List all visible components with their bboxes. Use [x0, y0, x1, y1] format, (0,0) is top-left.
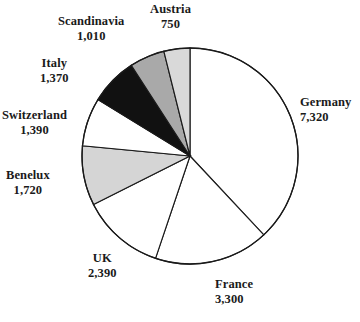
pie-chart-canvas [0, 0, 360, 322]
pie-label-name: Switzerland [2, 108, 67, 123]
pie-label-value: 1,720 [6, 183, 50, 198]
pie-label-name: Austria [150, 2, 191, 17]
pie-label-value: 3,300 [215, 292, 253, 307]
pie-label-switzerland: Switzerland1,390 [2, 108, 67, 138]
pie-label-benelux: Benelux1,720 [6, 168, 50, 198]
pie-label-scandinavia: Scandinavia1,010 [58, 14, 124, 44]
pie-label-uk: UK2,390 [88, 251, 117, 281]
pie-label-name: Germany [300, 95, 351, 110]
pie-label-value: 750 [150, 17, 191, 32]
pie-label-name: UK [88, 251, 117, 266]
pie-label-value: 7,320 [300, 110, 351, 125]
pie-label-name: Italy [40, 56, 69, 71]
pie-slices-group [82, 48, 298, 264]
pie-label-value: 2,390 [88, 266, 117, 281]
pie-label-value: 1,370 [40, 71, 69, 86]
pie-label-austria: Austria750 [150, 2, 191, 32]
pie-label-germany: Germany7,320 [300, 95, 351, 125]
pie-label-name: Scandinavia [58, 14, 124, 29]
pie-label-name: France [215, 277, 253, 292]
pie-chart: Germany7,320France3,300UK2,390Benelux1,7… [0, 0, 360, 322]
pie-label-france: France3,300 [215, 277, 253, 307]
pie-label-name: Benelux [6, 168, 50, 183]
pie-label-italy: Italy1,370 [40, 56, 69, 86]
pie-label-value: 1,010 [58, 29, 124, 44]
pie-label-value: 1,390 [2, 123, 67, 138]
